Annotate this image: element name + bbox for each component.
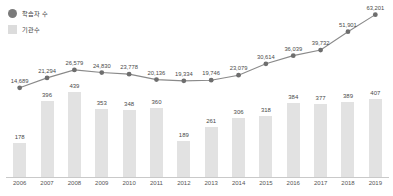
bar-value-label: 189 (179, 132, 189, 138)
bar-value-label: 439 (69, 83, 79, 89)
bar-value-label: 261 (206, 118, 216, 124)
bar-column: 353 (88, 24, 115, 177)
bar-column: 360 (143, 24, 170, 177)
bar-column: 189 (170, 24, 197, 177)
bar: 348 (123, 110, 136, 177)
bar-column: 439 (61, 24, 88, 177)
bar-value-label: 396 (42, 92, 52, 98)
bar-value-label: 360 (151, 99, 161, 105)
bar-series: 1783964393533483601892613063183843773894… (6, 24, 389, 177)
x-axis-tick-label: 2010 (115, 180, 142, 193)
bar-value-label: 377 (316, 95, 326, 101)
legend-item-bar: 기관수 (8, 23, 48, 36)
bar-value-label: 407 (370, 90, 380, 96)
bar-value-label: 306 (234, 109, 244, 115)
bar: 439 (68, 92, 81, 177)
x-axis-tick-label: 2012 (170, 180, 197, 193)
bar: 377 (314, 104, 327, 177)
circle-marker-icon (8, 9, 17, 18)
x-axis-tick-label: 2013 (198, 180, 225, 193)
x-axis-tick-label: 2016 (280, 180, 307, 193)
bar-column: 384 (280, 24, 307, 177)
legend-label-bar: 기관수 (22, 25, 40, 34)
legend-label-line: 학습자 수 (22, 9, 48, 18)
bar: 360 (150, 108, 163, 177)
bar: 261 (205, 127, 218, 177)
bar: 189 (177, 141, 190, 177)
bar: 306 (232, 118, 245, 177)
bar-value-label: 348 (124, 101, 134, 107)
bar: 384 (287, 103, 300, 177)
chart-legend: 학습자 수 기관수 (8, 7, 48, 39)
bar-column: 407 (362, 24, 389, 177)
x-axis-tick-label: 2014 (225, 180, 252, 193)
bar: 407 (369, 99, 382, 177)
bar-column: 306 (225, 24, 252, 177)
bar-column: 318 (252, 24, 279, 177)
bar-value-label: 384 (288, 94, 298, 100)
bar-column: 377 (307, 24, 334, 177)
x-axis-line (6, 177, 389, 178)
bar: 353 (95, 109, 108, 177)
bar-column: 396 (33, 24, 60, 177)
bar-value-label: 318 (261, 107, 271, 113)
x-axis-tick-label: 2007 (33, 180, 60, 193)
bar-column: 178 (6, 24, 33, 177)
bar-column: 348 (115, 24, 142, 177)
x-axis-tick-label: 2008 (61, 180, 88, 193)
line-data-point (373, 12, 378, 17)
bar-value-label: 353 (97, 100, 107, 106)
x-axis-tick-label: 2006 (6, 180, 33, 193)
x-axis-tick-label: 2011 (143, 180, 170, 193)
bar: 178 (13, 143, 26, 177)
bar-value-label: 178 (15, 134, 25, 140)
bar-column: 389 (334, 24, 361, 177)
x-axis-tick-label: 2019 (362, 180, 389, 193)
line-value-label: 63,201 (366, 5, 384, 11)
square-swatch-icon (8, 25, 17, 34)
chart-container: 학습자 수 기관수 178396439353348360189261306318… (0, 0, 393, 196)
bar: 389 (341, 102, 354, 177)
x-axis-tick-label: 2017 (307, 180, 334, 193)
legend-item-line: 학습자 수 (8, 7, 48, 20)
x-axis-ticks: 2006200720082009201020112012201320142015… (6, 180, 389, 193)
bar: 396 (41, 101, 54, 177)
x-axis-tick-label: 2009 (88, 180, 115, 193)
plot-area: 1783964393533483601892613063183843773894… (0, 0, 393, 196)
x-axis-tick-label: 2018 (334, 180, 361, 193)
x-axis-tick-label: 2015 (252, 180, 279, 193)
bar-value-label: 389 (343, 93, 353, 99)
bar-column: 261 (198, 24, 225, 177)
bar: 318 (259, 116, 272, 177)
